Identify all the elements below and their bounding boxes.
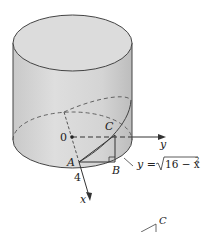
- point-B-label: B: [111, 164, 120, 177]
- origin-point: [70, 135, 74, 139]
- equation-prefix: y =: [136, 158, 156, 171]
- inset-hypotenuse: [141, 224, 156, 232]
- inset-triangle: C: [141, 215, 167, 232]
- curve-equation: y = 16 − x 2: [136, 156, 200, 171]
- cylinder-diagram: 0 A B C 4 x y y = 16 − x 2 C: [0, 0, 215, 232]
- equation-leader-line: [124, 158, 133, 166]
- equation-exponent: 2: [195, 156, 199, 164]
- radius-label: 4: [74, 171, 81, 184]
- point-A-label: A: [66, 156, 75, 169]
- x-axis-label: x: [80, 193, 87, 206]
- y-axis-label: y: [159, 138, 167, 151]
- origin-label: 0: [60, 131, 67, 144]
- x-axis-arrowhead-icon: [86, 192, 92, 201]
- inset-point-C-label: C: [159, 215, 167, 226]
- point-C-label: C: [105, 120, 114, 133]
- top-ellipse: [13, 15, 132, 71]
